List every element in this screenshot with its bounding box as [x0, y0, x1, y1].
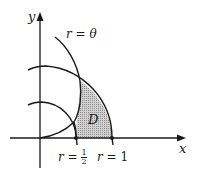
- marker-one-eq: =: [107, 150, 117, 164]
- circle-r-half: [28, 102, 76, 136]
- marker-one-r: r: [97, 150, 103, 164]
- x-axis-label: x: [179, 142, 186, 155]
- y-axis-label: y: [28, 10, 35, 23]
- marker-half-r: r: [58, 150, 64, 164]
- y-axis-arrow-icon: [37, 12, 44, 21]
- marker-label-half: r = 1 2: [58, 149, 87, 166]
- spiral-label-r: r: [66, 27, 72, 41]
- fraction-numerator: 1: [81, 149, 86, 157]
- point-r-half: [74, 136, 78, 140]
- spiral-label: r = θ: [66, 28, 97, 40]
- fraction-one-half: 1 2: [81, 149, 86, 166]
- spiral-label-theta: θ: [89, 27, 96, 41]
- marker-one-value: 1: [120, 150, 128, 164]
- polar-region-diagram: y x r = θ D r = 1 2 r = 1: [0, 0, 197, 174]
- region-label: D: [88, 113, 98, 126]
- diagram-graphics: [0, 0, 197, 174]
- marker-half-eq: =: [68, 150, 78, 164]
- spiral-label-eq: =: [76, 27, 86, 41]
- marker-label-one: r = 1: [97, 151, 128, 163]
- fraction-denominator: 2: [81, 157, 86, 166]
- point-r-one: [110, 136, 114, 140]
